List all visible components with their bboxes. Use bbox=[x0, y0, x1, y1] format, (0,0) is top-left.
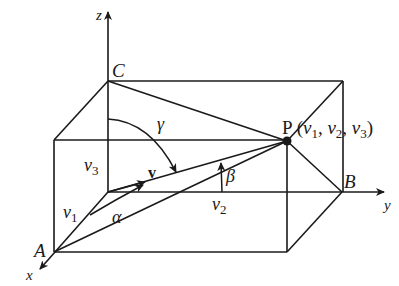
beta-label: β bbox=[225, 166, 235, 186]
gamma-arc bbox=[108, 119, 176, 172]
point-P-label: P (v1, v2, v3) bbox=[282, 117, 373, 141]
alpha-label: α bbox=[112, 207, 122, 227]
v2-label: v2 bbox=[212, 194, 227, 217]
vector-direction-angles-diagram: z y x C A B P (v1, v2, v3) v3 v1 v2 v α … bbox=[0, 0, 399, 286]
v1-label: v1 bbox=[63, 202, 78, 225]
y-axis-label: y bbox=[382, 197, 391, 213]
edge-bottom-right bbox=[287, 192, 342, 252]
diagram-canvas: z y x C A B P (v1, v2, v3) v3 v1 v2 v α … bbox=[0, 0, 399, 286]
gamma-label: γ bbox=[157, 114, 165, 134]
z-axis-label: z bbox=[95, 7, 102, 23]
angle-arcs bbox=[90, 119, 222, 215]
beta-arc bbox=[221, 163, 222, 192]
edge-top-left bbox=[54, 81, 108, 140]
vector-v-label: v bbox=[148, 164, 156, 181]
v3-label: v3 bbox=[84, 155, 99, 178]
point-C-label: C bbox=[112, 60, 125, 81]
diagonal-P-B bbox=[287, 141, 342, 192]
x-axis-label: x bbox=[25, 267, 33, 283]
diagonal-C-P bbox=[108, 81, 287, 141]
point-B-label: B bbox=[344, 171, 356, 192]
point-A-label: A bbox=[32, 240, 46, 261]
